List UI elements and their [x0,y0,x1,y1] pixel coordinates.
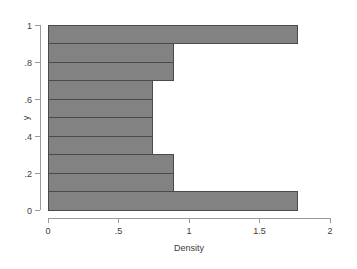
y-tick-label: .4 [24,132,32,142]
histogram-bar [48,99,152,118]
x-tick-label: 1 [186,226,191,236]
histogram-bar [48,136,152,155]
histogram-figure: 0.511.52 0.2.4.6.81 Density y [0,0,357,269]
histogram-bar [48,25,298,44]
y-tick-label: .2 [24,169,32,179]
y-tick-label: .6 [24,95,32,105]
x-tick-label: 1.5 [253,226,266,236]
histogram-bar [48,44,173,63]
histogram-bar [48,118,152,137]
y-axis-title: y [21,115,31,120]
histogram-bar [48,192,298,211]
y-tick-label: .8 [24,58,32,68]
y-tick-label: 0 [27,206,32,216]
histogram-bar [48,155,173,174]
x-axis-title: Density [174,243,205,253]
y-tick-label: 1 [27,21,32,31]
histogram-bar [48,62,173,81]
x-tick-label: 0 [45,226,50,236]
x-tick-label: 2 [327,226,332,236]
histogram-bar [48,173,173,192]
x-tick-label: .5 [115,226,123,236]
histogram-bar [48,81,152,100]
density-histogram-chart: 0.511.52 0.2.4.6.81 Density y [0,0,357,269]
